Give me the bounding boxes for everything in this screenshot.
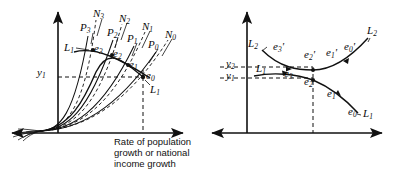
label-e0-prime: e0' bbox=[344, 41, 355, 52]
caption-line-2: growth or national bbox=[114, 147, 210, 158]
label-L2-right: L2 bbox=[367, 25, 377, 36]
label-P1: P1 bbox=[127, 33, 137, 44]
leader-L1 bbox=[76, 48, 89, 50]
y1-tick-label: y1 bbox=[37, 67, 46, 78]
label-e0: e0 bbox=[146, 70, 155, 81]
curve-L1 bbox=[40, 58, 143, 131]
point-e0 bbox=[141, 75, 145, 79]
leader-N0 bbox=[162, 39, 172, 56]
fan-tail-7 bbox=[18, 129, 40, 131]
point-e2-prime bbox=[311, 68, 315, 72]
label-N1: N1 bbox=[142, 21, 153, 32]
left-x-axis-caption: Rate of population growth or national in… bbox=[114, 136, 210, 169]
label-e3-prime: e3' bbox=[273, 41, 284, 52]
label-e2-prime: e2' bbox=[304, 49, 315, 60]
label-N3: N3 bbox=[93, 8, 104, 19]
label-e1: e1 bbox=[327, 88, 336, 99]
caption-line-1: Rate of population bbox=[114, 136, 210, 147]
label-N0: N0 bbox=[165, 29, 176, 40]
label-L1-left: L1 bbox=[64, 42, 74, 53]
label-e2: e2 bbox=[304, 76, 313, 87]
economics-figure: y1 L1 L1 P3 P2 P1 P0 N3 N2 N1 N0 e3 e2 e… bbox=[0, 0, 403, 188]
caption-line-3: income growth bbox=[114, 158, 210, 169]
y1-tick-label: y1 bbox=[226, 70, 235, 81]
label-L2-left: L2 bbox=[248, 38, 258, 49]
left-panel: y1 L1 L1 P3 P2 P1 P0 N3 N2 N1 N0 e3 e2 e… bbox=[0, 0, 202, 188]
right-panel: y2 y1 L2 L2 L1 L1 e3' e2' e1' e0' e3 e2 … bbox=[200, 0, 403, 188]
y2-tick-label: y2 bbox=[226, 58, 235, 69]
label-e2: e2 bbox=[113, 48, 122, 59]
label-e0: e0 bbox=[348, 106, 357, 117]
label-e1-prime: e1' bbox=[326, 47, 337, 58]
left-origin-fan bbox=[13, 129, 40, 141]
leader-L2-left bbox=[262, 47, 267, 51]
label-N2: N2 bbox=[119, 13, 130, 24]
leader-P3 bbox=[91, 33, 93, 44]
label-P3: P3 bbox=[80, 22, 90, 33]
label-L1-left: L1 bbox=[256, 63, 266, 74]
leader-L1-right bbox=[357, 114, 361, 115]
leader-N3 bbox=[97, 19, 102, 36]
label-P0: P0 bbox=[148, 39, 158, 50]
label-e3: e3 bbox=[94, 43, 103, 54]
label-e3: e3 bbox=[284, 68, 293, 79]
label-L1-right: L1 bbox=[363, 108, 373, 119]
label-P2: P2 bbox=[107, 27, 117, 38]
label-e1: e1 bbox=[129, 59, 138, 70]
label-L1-right: L1 bbox=[150, 84, 160, 95]
